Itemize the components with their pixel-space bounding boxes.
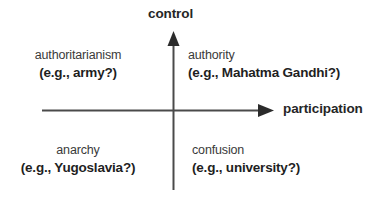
quadrant-top-left-example: (e.g., army?) xyxy=(0,64,164,81)
quadrant-bottom-left-example: (e.g., Yugoslavia?) xyxy=(0,159,164,176)
quadrant-bottom-right-name: confusion xyxy=(192,143,387,158)
quadrant-bottom-left-name: anarchy xyxy=(0,143,164,158)
vertical-axis-arrowhead xyxy=(168,31,180,46)
quadrant-diagram: control participation authoritarianism (… xyxy=(0,0,391,197)
vertical-axis-label: control xyxy=(148,6,193,21)
horizontal-axis-label: participation xyxy=(283,101,363,116)
quadrant-top-left: authoritarianism (e.g., army?) xyxy=(0,48,164,81)
quadrant-bottom-right-example: (e.g., university?) xyxy=(192,159,387,176)
quadrant-bottom-left: anarchy (e.g., Yugoslavia?) xyxy=(0,143,164,176)
quadrant-top-right-name: authority xyxy=(188,48,388,63)
quadrant-bottom-right: confusion (e.g., university?) xyxy=(192,143,387,176)
horizontal-axis-arrowhead xyxy=(258,104,274,117)
quadrant-top-left-name: authoritarianism xyxy=(0,48,164,63)
quadrant-top-right-example: (e.g., Mahatma Gandhi?) xyxy=(188,64,388,81)
quadrant-top-right: authority (e.g., Mahatma Gandhi?) xyxy=(188,48,388,81)
